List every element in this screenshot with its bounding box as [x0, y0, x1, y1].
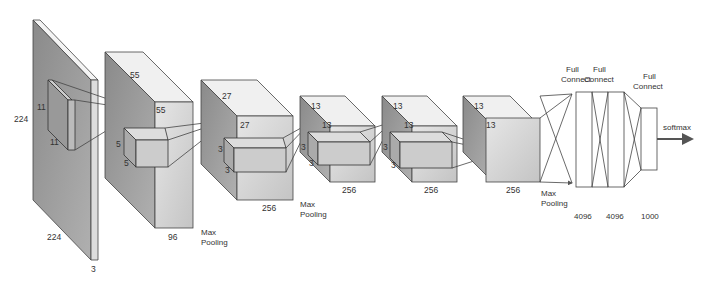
conv5-depth-label: 256	[506, 185, 520, 195]
fc2-block	[608, 92, 624, 187]
conv5-w-label: 13	[486, 120, 496, 130]
conv2-h-label: 27	[222, 91, 232, 101]
fc-layers: Full Connect Full Connect Full Connect 4…	[561, 65, 692, 221]
input-height-label: 224	[14, 114, 28, 124]
conv4-kernel-w-label: 3	[391, 160, 396, 170]
conv3-kernel-h-label: 3	[301, 142, 306, 152]
conv4-w-label: 13	[404, 120, 414, 130]
fc2-label-2: Connect	[584, 75, 615, 84]
input-kernel-w-label: 11	[50, 137, 59, 147]
pool1-label-1: Max	[201, 228, 216, 237]
conv3-h-label: 13	[311, 101, 321, 111]
softmax-label: softmax	[663, 123, 691, 132]
conv1-depth-label: 96	[168, 232, 178, 242]
conv5-h-label: 13	[474, 101, 484, 111]
pool1-label-2: Pooling	[201, 238, 228, 247]
conv3-layer: 13 13 256 3 3	[300, 96, 392, 195]
input-kernel-h-label: 11	[37, 102, 46, 112]
input-depth-label: 3	[91, 264, 96, 274]
conv3-w-label: 13	[322, 120, 332, 130]
conv2-w-label: 27	[240, 120, 250, 130]
fc2-size-label: 4096	[606, 212, 624, 221]
conv2-kernel-w-label: 3	[225, 165, 230, 175]
conv2-kernel-h-label: 3	[218, 144, 223, 154]
conv5-layer: 13 13 256 Max Pooling	[463, 94, 572, 208]
pool5-label-2: Pooling	[541, 199, 568, 208]
pool5-label-1: Max	[541, 189, 556, 198]
fc3-label-2: Connect	[633, 82, 664, 91]
conv1-kernel-h-label: 5	[116, 139, 121, 149]
fc3-label-1: Full	[643, 72, 656, 81]
fc1-label-1: Full	[566, 65, 579, 74]
fc3-size-label: 1000	[641, 212, 659, 221]
fc2-label-1: Full	[593, 65, 606, 74]
conv2-depth-label: 256	[262, 203, 276, 213]
pool2-label-1: Max	[300, 200, 315, 209]
alexnet-diagram: 224 224 3 11 11 55 55 96 5 5 Max Pooling…	[0, 0, 715, 281]
pool2-label-2: Pooling	[300, 210, 327, 219]
conv3-kernel-w-label: 3	[309, 158, 314, 168]
conv3-depth-label: 256	[342, 185, 356, 195]
conv1-kernel-w-label: 5	[124, 158, 129, 168]
input-width-label: 224	[47, 232, 61, 242]
conv4-h-label: 13	[393, 101, 403, 111]
fc1-block	[576, 92, 592, 187]
fc1-size-label: 4096	[574, 212, 592, 221]
conv4-depth-label: 256	[424, 185, 438, 195]
conv4-kernel-h-label: 3	[383, 142, 388, 152]
conv1-w-label: 55	[156, 105, 166, 115]
conv1-h-label: 55	[130, 70, 140, 80]
fc3-block	[641, 108, 657, 170]
